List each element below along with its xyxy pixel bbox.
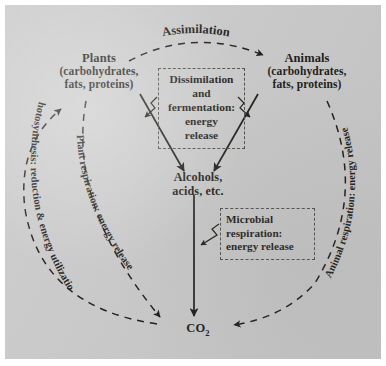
node-animals-sub-2: fats, proteins) [245,78,369,91]
diagram-panel: Assimilation Photosynthesis: reduction &… [5,5,381,359]
callout-dissimilation-line-5: release [162,129,241,143]
arc-label-animal-respiration: Animal respiration: energy release [322,126,357,279]
callout-dissimilation-line-2: and [162,87,241,101]
node-co2-subscript: 2 [205,328,209,338]
node-plants: Plants (carbohydrates, fats, proteins) [39,51,159,91]
callout-dissimilation-line-1: Dissimilation [162,73,241,87]
callout-dissimilation-line-3: fermentation: [162,101,241,115]
microbial-connector [201,224,219,245]
node-plants-sub-1: (carbohydrates, [39,65,159,78]
node-animals: Animals (carbohydrates, fats, proteins) [245,51,369,91]
arc-label-plant-respiration: Plant respiration: energy release [75,135,136,273]
node-co2-formula-wrap: CO2 [167,321,229,338]
node-alcohols-line-1: Alcohols, [145,171,251,185]
node-alcohols-line-2: acids, etc. [145,185,251,199]
callout-microbial-line-3: energy release [226,240,310,254]
node-plants-title: Plants [39,51,159,65]
callout-dissimilation: Dissimilation and fermentation: energy r… [158,68,245,149]
node-animals-title: Animals [245,51,369,65]
arc-label-assimilation: Assimilation [161,22,231,40]
figure-root: Assimilation Photosynthesis: reduction &… [0,0,386,366]
callout-dissimilation-line-4: energy [162,115,241,129]
callout-microbial: Microbial respiration: energy release [220,208,315,260]
callout-microbial-line-1: Microbial [226,213,310,227]
node-alcohols: Alcohols, acids, etc. [145,171,251,198]
node-co2-formula: CO [186,321,205,335]
node-co2: CO2 [167,321,229,338]
arc-label-photosynthesis: Photosynthesis: reduction & energy utili… [5,5,77,292]
node-animals-sub-1: (carbohydrates, [245,65,369,78]
callout-microbial-line-2: respiration: [226,227,310,241]
node-plants-sub-2: fats, proteins) [39,78,159,91]
